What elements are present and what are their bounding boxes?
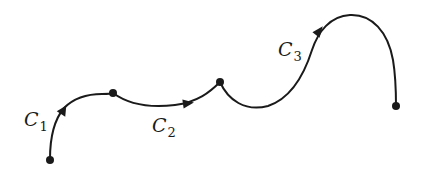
piecewise-path-diagram [0,0,424,169]
junction-point-2 [216,78,224,86]
curve-c3 [220,15,396,108]
label-c2: C2 [152,116,176,135]
label-c3-letter: C [278,38,293,60]
label-c2-letter: C [152,114,167,136]
label-c1-subscript: 1 [40,119,48,134]
curve-c2 [113,82,220,106]
curve-c1 [50,93,113,159]
label-c2-subscript: 2 [168,125,176,140]
arrow-c3-icon [312,24,326,38]
start-point [46,156,54,164]
arrow-c2-icon [182,98,194,108]
label-c1-letter: C [24,108,39,130]
label-c3-subscript: 3 [294,49,302,64]
label-c1: C1 [24,110,48,129]
junction-point-1 [109,89,117,97]
end-point [392,102,400,110]
label-c3: C3 [278,40,302,59]
